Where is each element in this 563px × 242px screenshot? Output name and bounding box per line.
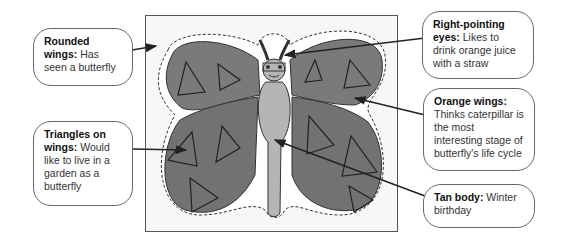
butterfly [158, 31, 385, 217]
callout-right-pointing-eyes: Right-pointing eyes: Likes to drink oran… [422, 11, 534, 79]
callout-orange-wings: Orange wings: Thinks caterpillar is the … [423, 88, 535, 171]
callout-rounded-wings: Rounded wings: Has seen a butterfly [33, 28, 133, 86]
callout-triangles-on-wings: Triangles on wings: Would like to live i… [33, 121, 133, 206]
callout-tan-body: Tan body: Winter birthday [423, 184, 535, 228]
head [263, 59, 285, 81]
